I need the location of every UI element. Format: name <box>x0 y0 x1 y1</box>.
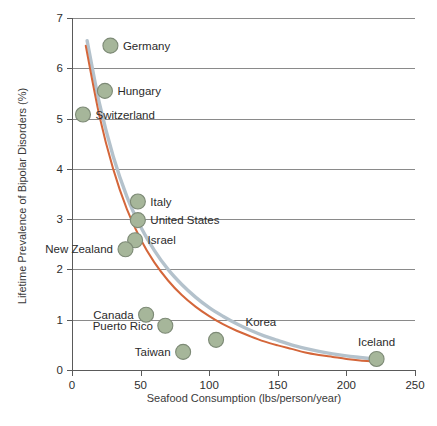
point-label-new-zealand: New Zealand <box>45 243 113 255</box>
x-axis-title: Seafood Consumption (lbs/person/year) <box>147 392 341 404</box>
data-point-new-zealand[interactable] <box>118 242 133 257</box>
y-tick-label-1: 1 <box>57 314 63 326</box>
point-label-united-states: United States <box>150 214 219 226</box>
data-point-switzerland[interactable] <box>75 107 90 122</box>
x-tick-label-150: 150 <box>268 379 287 391</box>
x-tick-label-50: 50 <box>134 379 147 391</box>
data-point-germany[interactable] <box>103 38 118 53</box>
y-tick-label-0: 0 <box>57 364 63 376</box>
point-label-iceland: Iceland <box>358 336 395 348</box>
data-point-puerto-rico[interactable] <box>158 318 173 333</box>
data-point-korea[interactable] <box>209 332 224 347</box>
data-point-iceland[interactable] <box>369 351 384 366</box>
point-label-germany: Germany <box>123 40 171 52</box>
y-axis-title: Lifetime Prevalence of Bipolar Disorders… <box>16 88 28 304</box>
point-label-hungary: Hungary <box>117 85 161 97</box>
x-tick-label-250: 250 <box>405 379 424 391</box>
point-label-switzerland: Switzerland <box>95 109 154 121</box>
data-point-united-states[interactable] <box>130 213 145 228</box>
y-tick-label-7: 7 <box>57 12 63 24</box>
x-tick-label-100: 100 <box>200 379 219 391</box>
y-tick-label-4: 4 <box>57 163 64 175</box>
y-tick-label-5: 5 <box>57 113 63 125</box>
y-tick-label-6: 6 <box>57 62 63 74</box>
x-tick-label-0: 0 <box>69 379 75 391</box>
y-tick-label-3: 3 <box>57 213 63 225</box>
point-label-taiwan: Taiwan <box>135 346 171 358</box>
point-label-italy: Italy <box>150 196 171 208</box>
point-label-puerto-rico: Puerto Rico <box>93 320 153 332</box>
scatter-plot: 01234567050100150200250 GermanyHungarySw… <box>0 0 437 426</box>
gridlines <box>72 19 415 321</box>
data-point-taiwan[interactable] <box>176 344 191 359</box>
x-tick-label-200: 200 <box>337 379 356 391</box>
point-label-israel: Israel <box>148 234 176 246</box>
chart-container: 01234567050100150200250 GermanyHungarySw… <box>0 0 437 426</box>
data-point-hungary[interactable] <box>97 83 112 98</box>
point-label-korea: Korea <box>246 316 277 328</box>
data-point-italy[interactable] <box>130 194 145 209</box>
y-tick-label-2: 2 <box>57 263 63 275</box>
